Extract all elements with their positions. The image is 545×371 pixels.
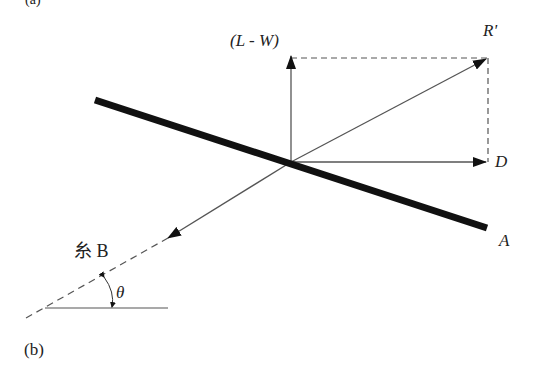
drag-label: D [494,152,508,171]
force-diagram: (a) (L - W) R' D A 糸 B θ (b) [0,0,545,371]
lift-minus-weight-label: (L - W) [230,31,279,50]
angle-arc [104,277,113,307]
panel-label: (b) [24,340,44,359]
plate-label: A [498,231,510,250]
string-label: 糸 B [74,241,109,261]
top-fragment-label: (a) [25,0,41,8]
string-tension-arrow [168,162,291,238]
resultant-arrow [291,59,486,162]
resultant-label: R' [482,21,497,40]
angle-label: θ [116,283,124,302]
